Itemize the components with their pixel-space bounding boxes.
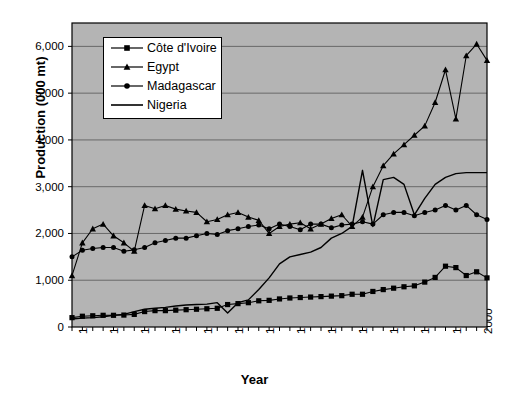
data-point xyxy=(453,265,458,270)
data-point xyxy=(329,294,334,299)
data-point xyxy=(277,222,282,227)
data-point xyxy=(412,283,417,288)
data-point xyxy=(194,233,199,238)
data-point xyxy=(464,203,469,208)
data-point xyxy=(90,246,95,251)
data-point xyxy=(422,210,427,215)
data-point xyxy=(184,236,189,241)
data-point xyxy=(391,286,396,291)
chart-legend: Côte d'IvoireEgyptMadagascarNigeria xyxy=(103,37,222,119)
legend-item-madagascar: Madagascar xyxy=(104,76,221,95)
data-point xyxy=(401,284,406,289)
data-point xyxy=(329,225,334,230)
data-point xyxy=(402,210,407,215)
legend-item-nigeria: Nigeria xyxy=(104,95,221,114)
data-point xyxy=(236,226,241,231)
data-point xyxy=(80,248,85,253)
data-point xyxy=(153,240,158,245)
data-point xyxy=(173,236,178,241)
legend-item-egypt: Egypt xyxy=(104,57,221,76)
data-point xyxy=(318,294,323,299)
data-point xyxy=(70,254,75,259)
data-point xyxy=(484,275,489,280)
data-point xyxy=(225,302,230,307)
data-point xyxy=(277,296,282,301)
legend-label: Côte d'Ivoire xyxy=(147,41,217,55)
data-point xyxy=(433,275,438,280)
data-point xyxy=(173,308,178,313)
data-point xyxy=(111,245,116,250)
data-point xyxy=(204,306,209,311)
legend-label: Nigeria xyxy=(147,98,187,112)
data-point xyxy=(132,247,137,252)
data-point xyxy=(163,308,168,313)
data-point xyxy=(267,226,272,231)
legend-marker-none-icon xyxy=(110,99,144,111)
data-point xyxy=(381,287,386,292)
data-point xyxy=(370,289,375,294)
data-point xyxy=(287,224,292,229)
data-point xyxy=(319,222,324,227)
data-point xyxy=(308,294,313,299)
data-point xyxy=(298,295,303,300)
legend-label: Egypt xyxy=(147,60,179,74)
data-point xyxy=(308,222,313,227)
data-point xyxy=(204,231,209,236)
data-point xyxy=(433,208,438,213)
data-point xyxy=(485,217,490,222)
data-point xyxy=(163,238,168,243)
data-point xyxy=(339,223,344,228)
data-point xyxy=(121,249,126,254)
legend-marker-triangle-icon xyxy=(110,61,144,73)
data-point xyxy=(256,298,261,303)
data-point xyxy=(298,227,303,232)
data-point xyxy=(443,203,448,208)
data-point xyxy=(453,208,458,213)
data-point xyxy=(474,212,479,217)
data-point xyxy=(360,292,365,297)
legend-marker-circle-icon xyxy=(110,80,144,92)
data-point xyxy=(142,245,147,250)
production-line-chart: Production (000 mt) Year 01,0002,0003,00… xyxy=(0,0,509,397)
data-point xyxy=(287,295,292,300)
data-point xyxy=(422,280,427,285)
data-point xyxy=(339,293,344,298)
legend-label: Madagascar xyxy=(147,79,216,93)
data-point xyxy=(381,212,386,217)
data-point xyxy=(184,307,189,312)
data-point xyxy=(101,245,106,250)
data-point xyxy=(443,264,448,269)
data-point xyxy=(246,224,251,229)
data-point xyxy=(360,219,365,224)
data-point xyxy=(391,210,396,215)
data-point xyxy=(267,298,272,303)
data-point xyxy=(474,269,479,274)
legend-marker-square-icon xyxy=(110,42,144,54)
data-point xyxy=(194,307,199,312)
plot-canvas xyxy=(0,0,509,397)
data-point xyxy=(350,292,355,297)
data-point xyxy=(256,223,261,228)
data-point xyxy=(215,232,220,237)
data-point xyxy=(225,228,230,233)
legend-item-c-te-d-ivoire: Côte d'Ivoire xyxy=(104,38,221,57)
data-point xyxy=(215,306,220,311)
data-point xyxy=(464,273,469,278)
